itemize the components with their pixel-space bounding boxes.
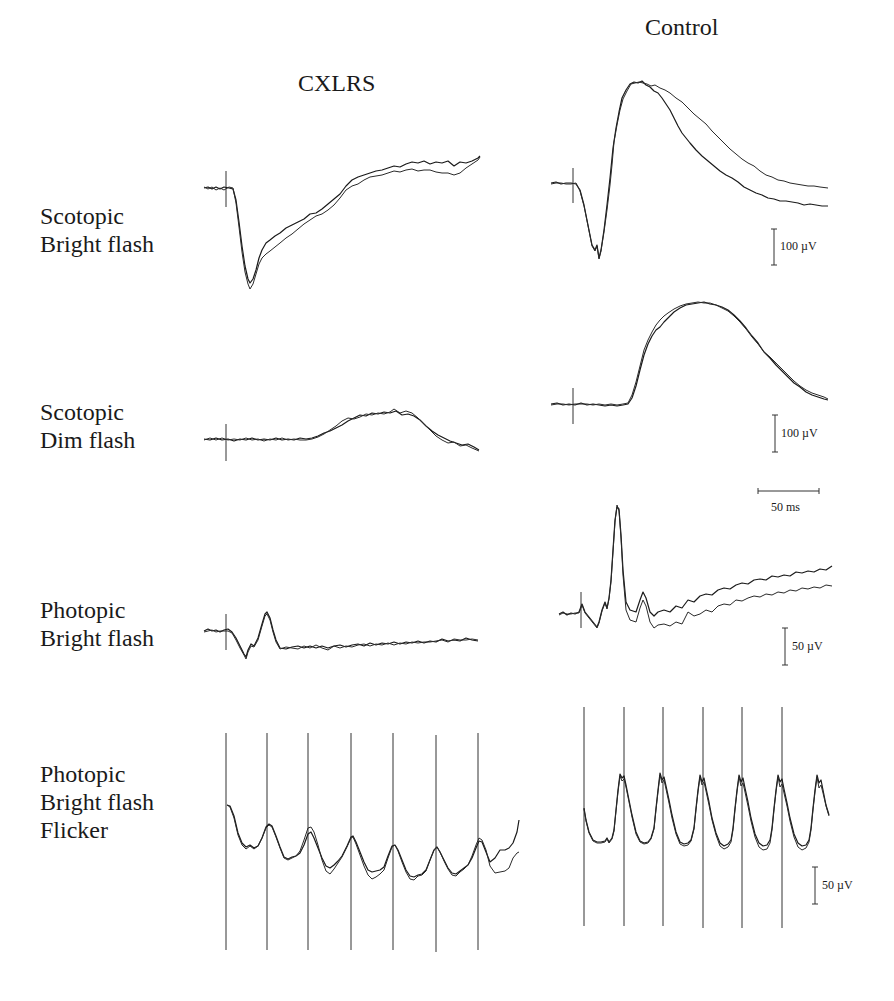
trace-cxlrs-photopic-bright <box>204 612 478 659</box>
scale-bar-50uv-row3 <box>782 628 788 665</box>
flash-markers <box>226 733 478 952</box>
scale-bar-50ms <box>758 488 819 494</box>
trace-cxlrs-scotopic-dim <box>204 409 479 461</box>
trace-control-scotopic-bright <box>551 81 828 259</box>
trace-control-flicker <box>584 707 829 928</box>
trace-cxlrs-scotopic-bright <box>204 156 480 289</box>
erg-traces-figure <box>0 0 894 1001</box>
flash-markers <box>584 707 782 928</box>
scale-bar-100uv-row2 <box>772 415 778 452</box>
trace-cxlrs-flicker <box>226 733 519 952</box>
scale-bar-100uv-row1 <box>771 229 777 265</box>
scale-bar-50uv-flicker <box>812 867 818 904</box>
trace-control-scotopic-dim <box>551 302 828 424</box>
trace-control-photopic-bright <box>559 505 832 628</box>
